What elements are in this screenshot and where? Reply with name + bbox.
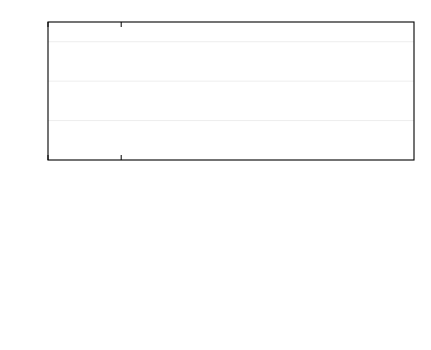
scientific-figure (0, 0, 431, 350)
plot-frame (48, 22, 414, 160)
figure-root (0, 0, 431, 350)
panel-upper (48, 22, 414, 160)
